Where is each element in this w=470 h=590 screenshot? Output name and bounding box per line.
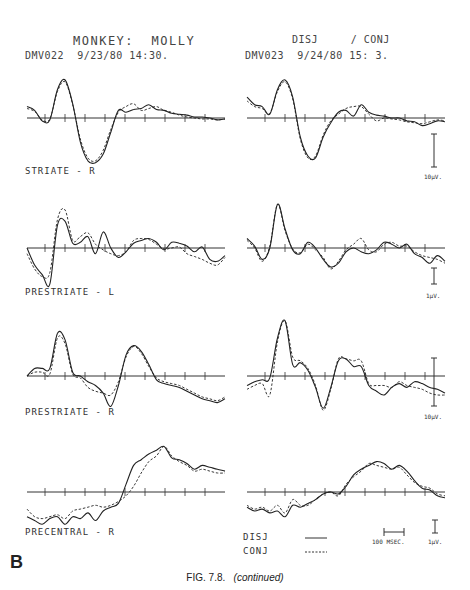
- panel-striate-right: [245, 70, 450, 150]
- panel-prestriate-r-left: [25, 310, 230, 400]
- left-title: MONKEY: MOLLY: [73, 34, 195, 48]
- disj-trace: [27, 446, 225, 524]
- scale-label-row2: 1µV.: [426, 292, 440, 299]
- conj-trace: [27, 336, 225, 401]
- right-run-id: DMV023 9/24/80 15: 3.: [245, 50, 388, 61]
- scale-label-row3: 10µV.: [424, 413, 442, 420]
- panel-prestriate-r-right: [245, 310, 450, 400]
- disj-trace: [247, 320, 445, 408]
- conj-trace: [27, 209, 225, 279]
- volt-scale-bar: [430, 520, 440, 536]
- conj-trace: [27, 446, 225, 518]
- disj-trace: [27, 79, 225, 163]
- conj-trace: [247, 321, 445, 411]
- panel-striate-left: [25, 70, 230, 150]
- scale-bar-10uv-row1: [429, 134, 439, 170]
- time-scale-bar: [383, 527, 407, 537]
- volt-scale-label: 1µV.: [428, 538, 442, 545]
- figure-caption: FIG. 7.8. (continued): [0, 572, 470, 583]
- legend-disj-line: [305, 536, 329, 540]
- disj-trace: [247, 80, 445, 160]
- time-scale-label: 100 MSEC.: [372, 538, 405, 545]
- scale-bar-10uv-row3: [429, 358, 439, 410]
- conj-trace: [247, 204, 445, 269]
- region-label-prestriate-l: PRESTRIATE - L: [25, 287, 115, 297]
- disj-trace: [27, 331, 225, 406]
- figure-panel-letter: B: [10, 552, 23, 573]
- caption-suffix: (continued): [234, 572, 284, 583]
- scale-label-row1: 10µV.: [424, 173, 442, 180]
- disj-trace: [247, 462, 445, 517]
- panel-prestriate-l-left: [25, 190, 230, 270]
- panel-precentral-left: [25, 430, 230, 510]
- left-run-id: DMV022 9/23/80 14:30.: [25, 50, 168, 61]
- right-title: DISJ / CONJ: [292, 34, 390, 45]
- panel-precentral-right: [245, 430, 450, 510]
- panel-prestriate-l-right: [245, 190, 450, 270]
- legend-conj-line: [305, 550, 329, 554]
- region-label-precentral-r: PRECENTRAL - R: [25, 527, 115, 537]
- disj-trace: [247, 204, 445, 267]
- scale-bar-1uv-row2: [429, 268, 439, 288]
- caption-prefix: FIG. 7.8.: [186, 572, 225, 583]
- conj-trace: [247, 463, 445, 513]
- legend-disj-label: DISJ: [243, 532, 269, 542]
- legend-conj-label: CONJ: [243, 546, 269, 556]
- region-label-striate-r: STRIATE - R: [25, 166, 96, 176]
- disj-trace: [27, 218, 225, 286]
- region-label-prestriate-r: PRESTRIATE - R: [25, 407, 115, 417]
